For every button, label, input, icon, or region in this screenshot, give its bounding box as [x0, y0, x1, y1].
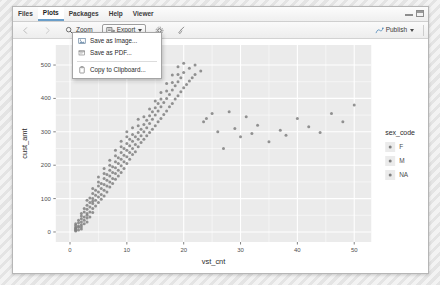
menu-item-save-as-image[interactable]: Save as Image...: [73, 35, 161, 47]
data-point: [185, 83, 188, 86]
data-point: [131, 147, 134, 150]
data-point: [97, 184, 100, 187]
data-point: [103, 194, 106, 197]
data-point: [123, 160, 126, 163]
minimize-icon[interactable]: [405, 12, 413, 16]
data-point: [108, 185, 111, 188]
data-point: [154, 114, 157, 117]
data-point: [88, 205, 91, 208]
data-point: [279, 129, 282, 132]
menu-divider: [77, 61, 157, 62]
data-point: [94, 194, 97, 197]
tab-files[interactable]: Files: [13, 7, 38, 21]
clear-plots-button[interactable]: [173, 24, 190, 37]
y-tick-label: 400: [41, 95, 52, 101]
data-point: [145, 126, 148, 129]
data-point: [211, 112, 214, 115]
clipboard-icon: [78, 66, 86, 74]
data-point: [233, 127, 236, 130]
pane-tabbar: Files Plots Packages Help Viewer: [13, 7, 428, 22]
data-point: [154, 106, 157, 109]
data-point: [194, 73, 197, 76]
back-button[interactable]: [17, 24, 34, 37]
data-point: [182, 86, 185, 89]
data-point: [88, 201, 91, 204]
data-point: [128, 144, 131, 147]
data-point: [159, 117, 162, 120]
y-tick-label: 500: [41, 62, 52, 68]
data-point: [171, 81, 174, 84]
data-point: [159, 91, 162, 94]
legend-label: M: [399, 157, 404, 164]
data-point: [125, 135, 128, 138]
data-point: [142, 123, 145, 126]
data-point: [80, 220, 83, 223]
data-point: [114, 154, 117, 157]
data-point: [114, 178, 117, 181]
menu-item-copy-to-clipboard[interactable]: Copy to Clipboard...: [73, 64, 161, 76]
data-point: [125, 155, 128, 158]
data-point: [296, 117, 299, 120]
data-point: [145, 134, 148, 137]
maximize-icon[interactable]: [416, 10, 424, 17]
data-point: [120, 151, 123, 154]
data-point: [148, 108, 151, 111]
data-point: [77, 228, 80, 231]
data-point: [100, 182, 103, 185]
data-point: [165, 110, 168, 113]
tab-viewer[interactable]: Viewer: [128, 7, 159, 21]
legend-label: F: [399, 143, 403, 150]
data-point: [94, 199, 97, 202]
tab-help[interactable]: Help: [104, 7, 128, 21]
data-point: [177, 73, 180, 76]
data-point: [159, 98, 162, 101]
data-point: [83, 215, 86, 218]
broom-icon: [177, 26, 186, 35]
data-point: [140, 134, 143, 137]
x-axis-title: vst_cnt: [202, 257, 227, 266]
data-point: [177, 65, 180, 68]
data-point: [111, 177, 114, 180]
data-point: [103, 167, 106, 170]
menu-label: Save as Image...: [90, 37, 137, 44]
x-tick-label: 30: [237, 247, 244, 253]
y-tick-label: 100: [41, 196, 52, 202]
data-point: [117, 162, 120, 165]
menu-item-save-as-pdf[interactable]: Save as PDF...: [73, 47, 161, 59]
data-point: [137, 124, 140, 127]
data-point: [125, 149, 128, 152]
data-point: [165, 82, 168, 85]
publish-label: Publish: [386, 27, 407, 34]
data-point: [267, 140, 270, 143]
data-point: [100, 187, 103, 190]
data-point: [105, 173, 108, 176]
y-tick-label: 0: [47, 229, 51, 235]
forward-button[interactable]: [39, 24, 56, 37]
data-point: [108, 169, 111, 172]
pdf-icon: [78, 49, 86, 57]
data-point: [245, 115, 248, 118]
data-point: [83, 207, 86, 210]
data-point: [140, 141, 143, 144]
data-point: [148, 114, 151, 117]
data-point: [108, 159, 111, 162]
data-point: [174, 84, 177, 87]
data-point: [105, 184, 108, 187]
data-point: [88, 196, 91, 199]
window-controls: [405, 10, 424, 17]
data-point: [123, 147, 126, 150]
menu-label: Copy to Clipboard...: [90, 66, 146, 73]
data-point: [137, 145, 140, 148]
data-point: [111, 171, 114, 174]
publish-button[interactable]: Publish: [371, 24, 418, 37]
toolbar-divider: [423, 25, 424, 36]
y-tick-label: 300: [41, 129, 52, 135]
data-point: [105, 179, 108, 182]
x-tick-label: 10: [124, 247, 131, 253]
data-point: [86, 220, 89, 223]
tab-plots[interactable]: Plots: [38, 7, 64, 21]
tab-packages[interactable]: Packages: [64, 7, 104, 21]
data-point: [105, 190, 108, 193]
data-point: [353, 104, 356, 107]
data-point: [88, 215, 91, 218]
